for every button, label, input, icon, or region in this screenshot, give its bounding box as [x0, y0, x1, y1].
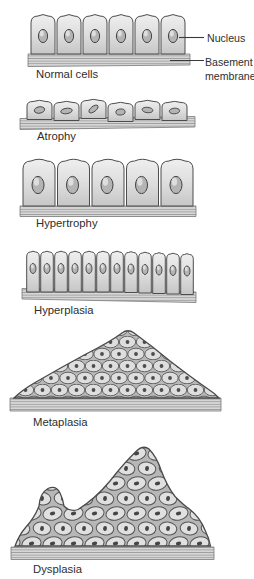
- cell-adaptation-figure: Nucleus Basement membrane Normal cells A…: [0, 0, 254, 579]
- hypertrophy-diagram: Hypertrophy: [20, 159, 196, 228]
- metaplasia-diagram: Metaplasia: [10, 331, 221, 428]
- hypertrophy-basement-membrane: [20, 206, 196, 217]
- hyperplasia-cells-row: [27, 251, 194, 294]
- dysplasia-cell-mound: [15, 447, 211, 546]
- nucleus-label: Nucleus: [207, 32, 245, 44]
- atrophy-label: Atrophy: [37, 130, 76, 142]
- hypertrophy-cells-row: [23, 159, 193, 206]
- metaplasia-cell-mound: [14, 331, 219, 398]
- hyperplasia-label: Hyperplasia: [34, 304, 94, 316]
- basement-membrane-label-line1: Basement: [205, 56, 253, 68]
- basement-membrane-label-line2: membrane: [205, 70, 254, 82]
- metaplasia-label: Metaplasia: [33, 416, 88, 428]
- dysplasia-label: Dysplasia: [33, 563, 83, 575]
- hypertrophy-label: Hypertrophy: [36, 217, 98, 229]
- dysplasia-basement-membrane: [11, 547, 214, 560]
- normal-cells-label: Normal cells: [36, 68, 98, 80]
- normal-cells-diagram: Nucleus Basement membrane Normal cells: [28, 15, 254, 82]
- figure-canvas: Nucleus Basement membrane Normal cells A…: [0, 0, 254, 579]
- metaplasia-basement-membrane: [10, 398, 221, 411]
- hyperplasia-diagram: Hyperplasia: [22, 251, 196, 315]
- atrophy-diagram: Atrophy: [20, 99, 195, 141]
- normal-basement-membrane: [28, 54, 190, 67]
- dysplasia-diagram: Dysplasia: [11, 447, 214, 574]
- normal-cells-row: [31, 15, 185, 54]
